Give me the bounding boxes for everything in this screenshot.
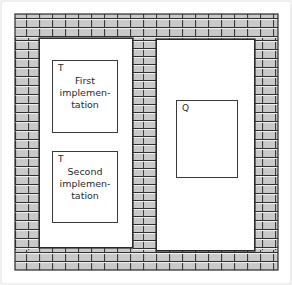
box-first-line-3: tation xyxy=(53,99,117,112)
box-first-line-1: First xyxy=(53,75,117,88)
box-second-implementation: T Second implemen- tation xyxy=(52,151,118,223)
box-second-line-1: Second xyxy=(53,166,117,179)
floor-plan-figure: T First implemen- tation T Second implem… xyxy=(0,0,292,285)
box-q: Q xyxy=(176,100,238,178)
box-second-tag: T xyxy=(58,154,64,164)
box-q-tag: Q xyxy=(182,103,189,113)
box-first-line-2: implemen- xyxy=(53,87,117,100)
box-second-line-2: implemen- xyxy=(53,178,117,191)
box-first-implementation: T First implemen- tation xyxy=(52,60,118,133)
box-second-line-3: tation xyxy=(53,190,117,203)
box-first-tag: T xyxy=(58,63,64,73)
